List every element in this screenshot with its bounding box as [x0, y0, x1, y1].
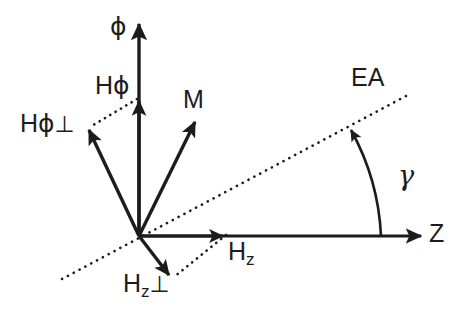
h-phi-label-subscript: ϕ	[113, 71, 130, 100]
h-phi-perp-label-head: H	[20, 109, 38, 137]
magnetization-label: M	[183, 87, 204, 112]
h-phi-label: Hϕ	[95, 73, 130, 98]
h-phi-perp-vector	[89, 130, 139, 236]
phi-axis-label: ϕ	[110, 14, 127, 39]
h-phi-perp-label: Hϕ⊥	[20, 111, 75, 136]
h-z-projection-dotted	[174, 235, 226, 277]
vector-diagram: ϕ Z Hϕ Hϕ⊥ M Hz Hz⊥ EA γ	[0, 0, 466, 319]
diagram-canvas	[0, 0, 466, 319]
h-phi-label-head: H	[95, 71, 113, 99]
gamma-angle-label: γ	[398, 162, 414, 189]
h-z-perp-vector	[139, 236, 169, 275]
h-z-label-subscript: z	[246, 250, 255, 269]
z-axis-label: Z	[429, 221, 444, 246]
h-phi-perp-label-symbol: ⊥	[55, 111, 75, 137]
h-phi-projection-dotted	[90, 99, 137, 127]
h-z-perp-label-symbol: ⊥	[150, 271, 170, 297]
h-z-label-head: H	[228, 237, 246, 265]
gamma-angle-arc	[351, 130, 381, 236]
magnetization-vector	[139, 122, 195, 236]
h-z-perp-label-subscript: z	[141, 282, 150, 301]
easy-axis-label: EA	[351, 65, 384, 90]
h-z-perp-label: Hz⊥	[123, 271, 170, 300]
h-phi-perp-label-subscript: ϕ	[38, 109, 55, 138]
h-z-label: Hz	[228, 239, 255, 268]
h-z-perp-label-head: H	[123, 269, 141, 297]
